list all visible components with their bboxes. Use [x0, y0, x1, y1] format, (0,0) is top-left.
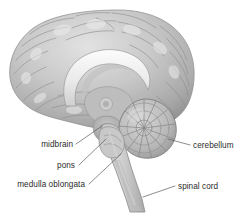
label-midbrain: midbrain	[0, 140, 73, 150]
label-pons: pons	[0, 161, 75, 171]
label-spinal-cord: spinal cord	[178, 182, 218, 192]
leader-line-spinal-cord	[143, 186, 175, 197]
brain-anatomy-diagram: midbrain pons medulla oblongata cerebell…	[0, 0, 250, 217]
label-cerebellum: cerebellum	[193, 141, 234, 151]
label-medulla-oblongata: medulla oblongata	[0, 180, 85, 190]
